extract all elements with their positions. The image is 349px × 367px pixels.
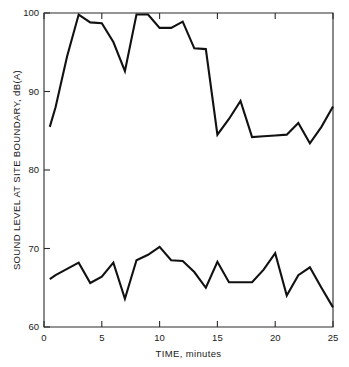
x-tick-label: 5	[99, 332, 104, 343]
x-tick-label: 25	[328, 332, 339, 343]
y-tick-label: 70	[28, 243, 39, 254]
x-tick-label: 0	[41, 332, 46, 343]
y-tick-label: 60	[28, 321, 39, 332]
series-line-upper	[50, 15, 333, 144]
y-tick-label: 100	[23, 7, 39, 18]
y-axis-title: SOUND LEVEL AT SITE BOUNDARY, dB(A)	[11, 70, 22, 270]
x-axis-title: TIME, minutes	[156, 348, 222, 359]
chart-figure: 60708090100 0510152025 TIME, minutes SOU…	[0, 0, 349, 367]
line-chart: 60708090100 0510152025 TIME, minutes SOU…	[0, 0, 349, 367]
x-tick-label: 10	[154, 332, 165, 343]
y-axis-tick-labels: 60708090100	[23, 7, 39, 332]
y-axis-ticks	[44, 13, 50, 327]
x-axis-tick-labels: 0510152025	[41, 332, 338, 343]
y-tick-label: 90	[28, 86, 39, 97]
x-tick-label: 20	[270, 332, 281, 343]
x-tick-label: 15	[212, 332, 223, 343]
series-line-lower	[50, 247, 333, 307]
y-tick-label: 80	[28, 164, 39, 175]
